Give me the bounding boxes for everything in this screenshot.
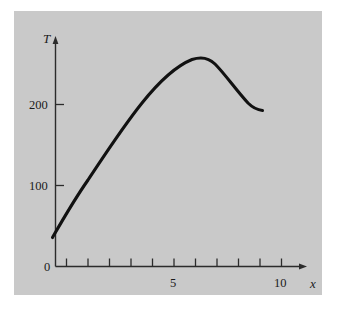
x-tick-label-10: 10 bbox=[274, 276, 287, 290]
y-tick-label-0: 0 bbox=[44, 260, 50, 274]
x-tick-label-5: 5 bbox=[170, 276, 176, 290]
y-tick-label-200: 200 bbox=[29, 98, 48, 112]
data-curve bbox=[53, 58, 263, 238]
x-axis-title: x bbox=[309, 276, 316, 291]
x-axis-arrow-icon bbox=[299, 264, 307, 270]
figure-container: T x 200 100 0 5 10 bbox=[0, 0, 337, 312]
x-axis bbox=[56, 264, 308, 270]
x-axis-ticks bbox=[67, 259, 282, 267]
y-tick-label-100: 100 bbox=[29, 179, 48, 193]
y-axis-title: T bbox=[43, 31, 51, 46]
y-axis-ticks bbox=[56, 105, 65, 186]
chart-svg: T x 200 100 0 5 10 bbox=[0, 0, 337, 312]
y-axis-arrow-icon bbox=[53, 36, 59, 44]
